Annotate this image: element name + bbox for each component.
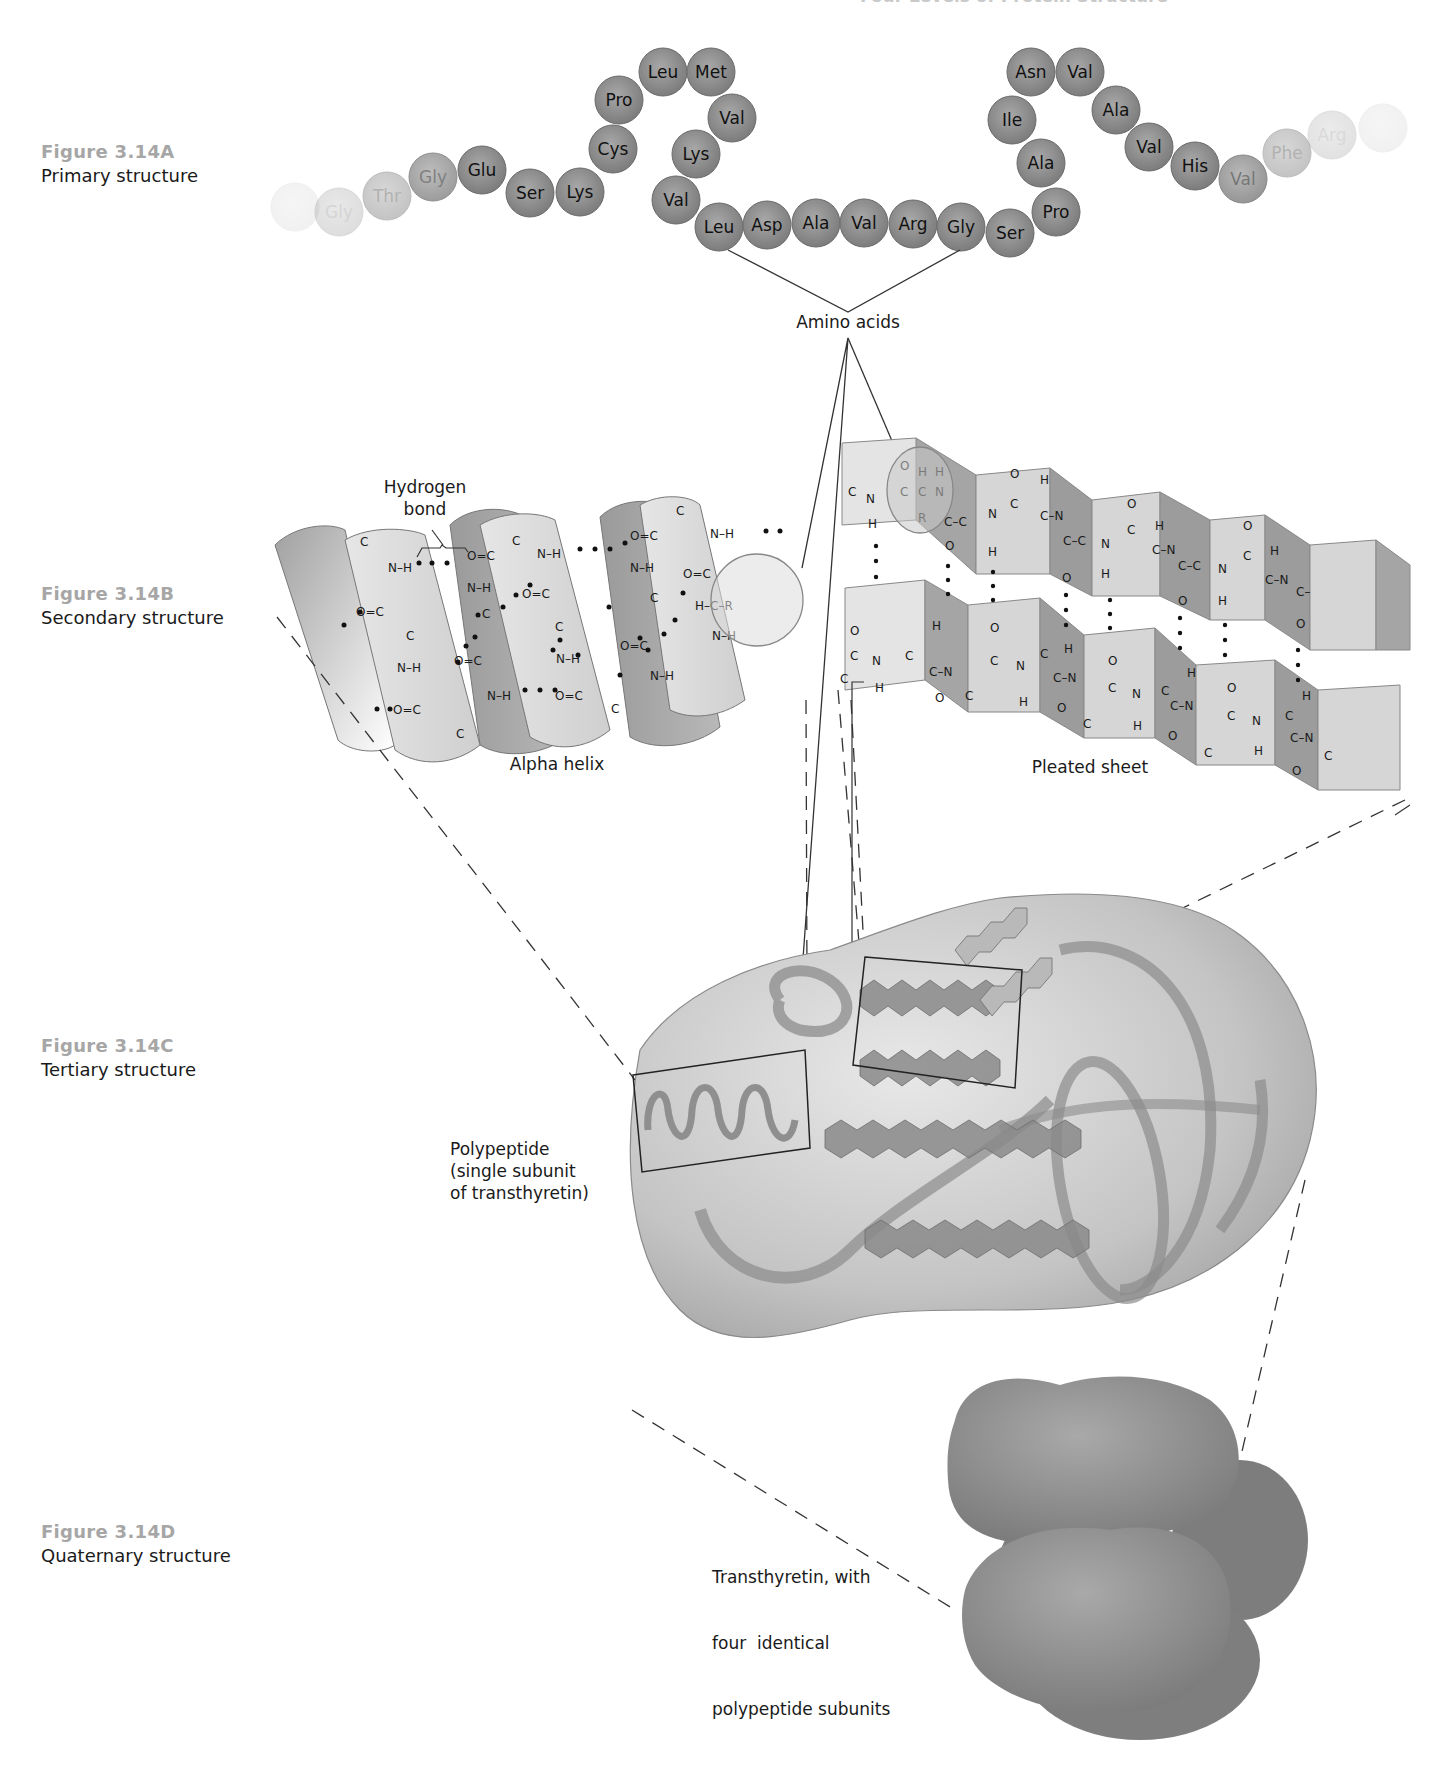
amino-acid-bead: Ala <box>1017 139 1065 187</box>
svg-text:O=C: O=C <box>467 549 495 563</box>
svg-text:O=C: O=C <box>393 703 421 717</box>
svg-text:C–N: C–N <box>1265 573 1288 587</box>
amino-acid-bead: Arg <box>1308 111 1356 159</box>
amino-acid-label: Ala <box>1103 100 1130 120</box>
amino-acid-label: Val <box>1067 62 1092 82</box>
svg-text:O: O <box>1010 467 1019 481</box>
amino-acid-label: Gly <box>947 217 975 237</box>
amino-acid-label: Pro <box>606 90 633 110</box>
amino-acid-label: Ile <box>1002 110 1022 130</box>
svg-text:H: H <box>1302 689 1311 703</box>
amino-acid-label: Leu <box>704 217 734 237</box>
svg-text:N: N <box>988 507 997 521</box>
helix-amino-acid-highlight <box>711 554 803 646</box>
svg-text:H: H <box>1218 594 1227 608</box>
svg-text:O: O <box>945 539 954 553</box>
transthyretin-label-line1: Transthyretin, with <box>712 1566 890 1588</box>
amino-acid-bead: Val <box>652 176 700 224</box>
sheet-amino-acid-highlight <box>887 447 953 533</box>
svg-text:C: C <box>650 591 658 605</box>
svg-text:C: C <box>1161 684 1169 698</box>
svg-text:C: C <box>1243 549 1251 563</box>
amino-acid-bead: Val <box>840 199 888 247</box>
amino-acid-label: Gly <box>419 167 447 187</box>
amino-acid-bead: Lys <box>556 168 604 216</box>
svg-text:H: H <box>1270 544 1279 558</box>
amino-acid-bead <box>1359 104 1407 152</box>
amino-acid-label: Gly <box>325 202 353 222</box>
svg-text:N: N <box>1016 659 1025 673</box>
amino-acid-bead: Ala <box>1092 86 1140 134</box>
svg-text:C–N: C–N <box>1053 671 1076 685</box>
svg-text:N–H: N–H <box>397 661 421 675</box>
svg-text:N–H: N–H <box>487 689 511 703</box>
svg-text:C: C <box>360 535 368 549</box>
amino-acid-label: Pro <box>1043 202 1070 222</box>
amino-acid-label: Arg <box>1317 125 1346 145</box>
svg-text:C: C <box>456 727 464 741</box>
amino-acid-label: Val <box>851 213 876 233</box>
amino-acid-bead: Val <box>1125 123 1173 171</box>
polypeptide-label-line3: of transthyretin) <box>450 1182 589 1204</box>
svg-text:H: H <box>932 619 941 633</box>
svg-text:C–: C– <box>1296 585 1310 599</box>
svg-text:C–N: C–N <box>1170 699 1193 713</box>
amino-acid-label: Lys <box>683 144 710 164</box>
svg-text:O: O <box>1168 729 1177 743</box>
amino-acid-bead: Asn <box>1007 48 1055 96</box>
amino-acid-label: Ala <box>803 213 830 233</box>
svg-text:C: C <box>965 689 973 703</box>
svg-text:C: C <box>555 620 563 634</box>
svg-text:C: C <box>1108 681 1116 695</box>
svg-text:O: O <box>1227 681 1236 695</box>
amino-acid-label: Ser <box>996 223 1024 243</box>
amino-acid-label: Asp <box>751 215 782 235</box>
svg-text:O=C: O=C <box>630 529 658 543</box>
amino-acid-bead: Gly <box>937 203 985 251</box>
protein-structure-diagram: GlyThrGlyGluSerLysCysProLeuMetValLysValL… <box>0 0 1445 1775</box>
svg-text:C: C <box>1324 749 1332 763</box>
svg-text:H: H <box>868 517 877 531</box>
amino-acid-bead: Val <box>1056 48 1104 96</box>
amino-acid-bead: Glu <box>458 146 506 194</box>
amino-acid-label: Cys <box>598 139 629 159</box>
amino-acid-label: Ser <box>516 183 544 203</box>
svg-text:C: C <box>1083 717 1091 731</box>
polypeptide-label: Polypeptide (single subunit of transthyr… <box>450 1138 589 1204</box>
svg-text:C: C <box>990 654 998 668</box>
amino-acid-bead <box>271 183 319 231</box>
transthyretin-label-line2: four identical <box>712 1632 890 1654</box>
svg-text:N–H: N–H <box>537 547 561 561</box>
amino-acid-bead: Pro <box>1032 188 1080 236</box>
amino-acid-label: Met <box>695 62 727 82</box>
quaternary-structure <box>947 1377 1308 1740</box>
svg-text:C–C: C–C <box>1063 534 1086 548</box>
amino-acid-bead: Leu <box>695 203 743 251</box>
svg-text:H: H <box>1254 744 1263 758</box>
amino-acid-bead: Ile <box>988 96 1036 144</box>
svg-text:H: H <box>1101 567 1110 581</box>
amino-acid-bead: Ser <box>506 169 554 217</box>
amino-acid-label: Asn <box>1015 62 1046 82</box>
svg-text:C–N: C–N <box>1040 509 1063 523</box>
svg-text:O=C: O=C <box>522 587 550 601</box>
polypeptide-label-line1: Polypeptide <box>450 1138 589 1160</box>
svg-text:N–H: N–H <box>467 581 491 595</box>
svg-text:C–N: C–N <box>929 665 952 679</box>
amino-acid-label: Phe <box>1271 143 1303 163</box>
polypeptide-label-line2: (single subunit <box>450 1160 589 1182</box>
svg-text:H: H <box>1019 695 1028 709</box>
svg-text:O: O <box>1108 654 1117 668</box>
svg-text:H: H <box>1155 519 1164 533</box>
svg-text:H: H <box>1040 473 1049 487</box>
amino-acid-bead: Val <box>1219 155 1267 203</box>
amino-acid-bead: Val <box>708 94 756 142</box>
amino-acid-label: His <box>1182 156 1209 176</box>
svg-text:H: H <box>1133 719 1142 733</box>
amino-acid-label: Ala <box>1028 153 1055 173</box>
svg-text:N: N <box>1218 562 1227 576</box>
svg-text:C–N: C–N <box>1290 731 1313 745</box>
svg-text:C: C <box>905 649 913 663</box>
svg-text:O: O <box>1127 497 1136 511</box>
svg-text:O: O <box>935 691 944 705</box>
